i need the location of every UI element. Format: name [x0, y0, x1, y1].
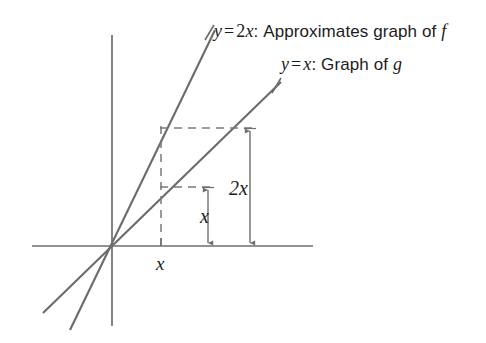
- leader-line-x-label: [272, 78, 281, 93]
- dimension-label-x: x: [200, 206, 209, 226]
- line-y-equals-2x: [70, 30, 215, 330]
- label-2x-function: f: [441, 21, 446, 41]
- label-x-colon: :: [311, 55, 316, 74]
- label-x-y: y: [281, 54, 289, 74]
- label-2x-description: Approximates graph of: [263, 22, 436, 41]
- label-2x-colon: :: [254, 22, 259, 41]
- linear-approximation-figure: y=2x: Approximates graph of f y=x: Graph…: [0, 0, 486, 343]
- label-line-y-equals-2x: y=2x: Approximates graph of f: [214, 22, 446, 40]
- label-line-y-equals-x: y=x: Graph of g: [281, 55, 402, 73]
- label-x-function: g: [393, 54, 402, 74]
- label-x-description: Graph of: [321, 55, 388, 74]
- dimension-label-2x: 2x: [229, 178, 248, 198]
- label-2x-y: y: [214, 21, 222, 41]
- x-axis-value-label: x: [156, 254, 164, 273]
- label-x-equals: =: [289, 54, 303, 74]
- label-2x-variable: x: [245, 21, 253, 41]
- label-2x-equals: =: [222, 21, 236, 41]
- figure-canvas: [0, 0, 486, 343]
